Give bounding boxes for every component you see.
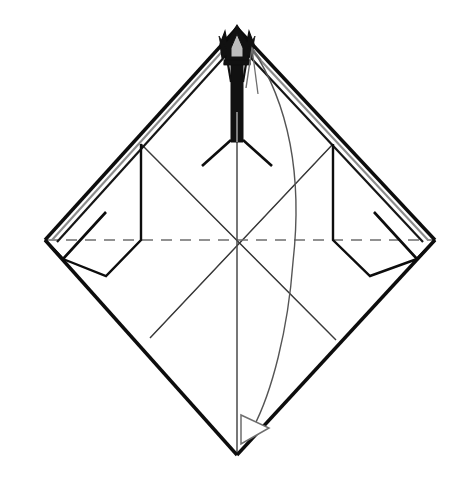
origami-diagram-svg xyxy=(0,0,465,479)
origami-diagram-container xyxy=(0,0,465,479)
